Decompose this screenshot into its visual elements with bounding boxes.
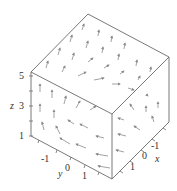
- z-tick-5: 5: [19, 70, 24, 81]
- x-tick-1: 1: [130, 161, 135, 172]
- x-axis-label: x: [154, 153, 160, 164]
- y-tick-neg1: -1: [41, 153, 49, 164]
- x-tick-neg1: -1: [151, 140, 159, 151]
- y-tick-0: 0: [65, 162, 70, 173]
- z-tick-3: 3: [19, 100, 24, 111]
- x-tick-0: 0: [142, 150, 147, 161]
- z-axis-label: z: [9, 100, 14, 111]
- y-axis-label: y: [57, 168, 63, 179]
- vector-arrows: [40, 24, 158, 168]
- y-tick-1: 1: [82, 170, 87, 181]
- vector-field-plot: 5 3 1 z -1 0 1 y -1 0 1 x: [0, 0, 177, 191]
- z-tick-1: 1: [19, 130, 24, 141]
